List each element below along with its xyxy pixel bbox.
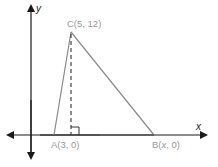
x-axis-label: x: [195, 121, 202, 132]
point-a-label: A(3, 0): [51, 139, 80, 150]
point-b-label: B(x, 0): [152, 139, 180, 150]
triangle-side-cb: [71, 32, 154, 135]
point-c-label: C(5, 12): [67, 18, 101, 29]
y-axis-label: y: [35, 3, 42, 14]
triangle-side-ac: [54, 32, 71, 135]
right-angle-marker: [71, 127, 79, 135]
coordinate-diagram: y x C(5, 12) A(3, 0) B(x, 0): [0, 0, 218, 167]
